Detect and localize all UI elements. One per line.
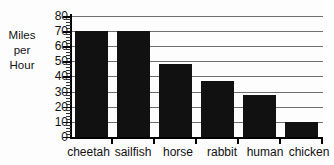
y-major-tick: [63, 122, 71, 124]
plot-area: [72, 16, 323, 137]
y-major-tick: [63, 46, 71, 48]
y-minor-tick: [66, 113, 71, 114]
gridline-40: [72, 76, 323, 77]
y-major-tick: [63, 107, 71, 109]
y-axis-title-line-3: Hour: [0, 58, 44, 73]
y-axis-title-line-1: Miles: [0, 28, 44, 43]
y-minor-tick: [66, 134, 71, 135]
y-major-tick: [63, 92, 71, 94]
y-minor-tick: [66, 37, 71, 38]
gridline-20: [72, 107, 323, 108]
y-minor-tick: [66, 131, 71, 132]
x-tick-label-chicken: chicken: [281, 145, 334, 159]
y-minor-tick: [66, 101, 71, 102]
gridline-80: [72, 16, 323, 17]
x-axis-tick: [321, 138, 323, 144]
x-axis-line: [70, 137, 323, 139]
gridline-70: [72, 31, 323, 32]
gridline-60: [72, 46, 323, 47]
x-tick-label-sailfish: sailfish: [106, 145, 160, 159]
y-minor-tick: [66, 25, 71, 26]
gridline-30: [72, 92, 323, 93]
x-axis-tick: [153, 138, 155, 144]
y-minor-tick: [66, 52, 71, 53]
bar-sailfish: [117, 31, 150, 137]
y-minor-tick: [66, 49, 71, 50]
y-minor-tick: [66, 64, 71, 65]
y-minor-tick: [66, 104, 71, 105]
y-major-tick: [63, 137, 71, 139]
y-minor-tick: [66, 34, 71, 35]
y-minor-tick: [66, 58, 71, 59]
x-axis-tick: [195, 138, 197, 144]
y-minor-tick: [66, 85, 71, 86]
bar-cheetah: [75, 31, 108, 137]
y-minor-tick: [66, 79, 71, 80]
y-minor-tick: [66, 22, 71, 23]
y-minor-tick: [66, 116, 71, 117]
y-minor-tick: [66, 67, 71, 68]
y-major-tick: [63, 16, 71, 18]
y-minor-tick: [66, 95, 71, 96]
y-minor-tick: [66, 88, 71, 89]
x-axis-tick: [237, 138, 239, 144]
y-major-tick: [63, 31, 71, 33]
y-minor-tick: [66, 40, 71, 41]
y-axis-title-line-2: per: [0, 43, 44, 58]
bar-rabbit: [201, 81, 234, 137]
y-major-tick: [63, 76, 71, 78]
y-minor-tick: [66, 82, 71, 83]
y-axis-title: Miles per Hour: [0, 28, 44, 73]
y-minor-tick: [66, 125, 71, 126]
y-minor-tick: [66, 19, 71, 20]
y-minor-tick: [66, 98, 71, 99]
y-minor-tick: [66, 55, 71, 56]
y-minor-tick: [66, 119, 71, 120]
bar-chicken: [285, 122, 318, 137]
gridline-50: [72, 61, 323, 62]
x-axis-tick: [111, 138, 113, 144]
y-minor-tick: [66, 28, 71, 29]
bar-horse: [159, 64, 192, 137]
y-minor-tick: [66, 128, 71, 129]
y-major-tick: [63, 61, 71, 63]
y-minor-tick: [66, 70, 71, 71]
y-minor-tick: [66, 73, 71, 74]
y-minor-tick: [66, 43, 71, 44]
x-axis-tick: [279, 138, 281, 144]
y-minor-tick: [66, 110, 71, 111]
bar-human: [243, 95, 276, 137]
x-axis-tick-labels: cheetah sailfish horse rabbit human chic…: [60, 145, 325, 165]
